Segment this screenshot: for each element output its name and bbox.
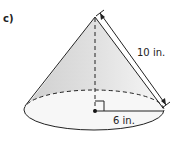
part-label: c)	[3, 13, 14, 24]
radius-label: 6 in.	[113, 115, 135, 126]
slant-height-label: 10 in.	[137, 47, 165, 58]
cone-diagram: c) 6 in. 10 in.	[0, 0, 174, 144]
